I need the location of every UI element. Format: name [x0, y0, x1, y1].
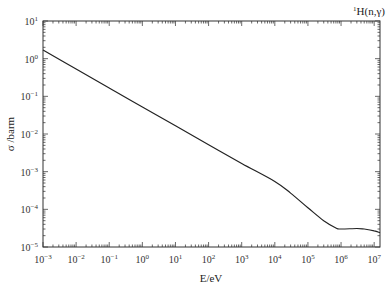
tick-label: 106 [334, 253, 348, 265]
reaction-annotation: 1H(n,γ) [353, 5, 385, 18]
cross-section-chart: 10−310−210−1100101102103104105106107 101… [0, 0, 392, 294]
tick-label: 10−4 [21, 203, 39, 215]
tick-label: 10−5 [21, 241, 39, 253]
tick-label: 10−2 [21, 128, 39, 140]
tick-label: 105 [301, 253, 315, 265]
tick-label: 101 [25, 15, 39, 27]
tick-label: 10−1 [101, 253, 119, 265]
tick-label: 100 [136, 253, 150, 265]
tick-label: 100 [25, 53, 39, 65]
tick-label: 107 [367, 253, 381, 265]
data-line [43, 50, 380, 233]
tick-label: 102 [202, 253, 216, 265]
tick-label: 104 [268, 253, 282, 265]
x-axis-label: E/eV [200, 272, 223, 284]
tick-label: 101 [169, 253, 183, 265]
axis-ticks [43, 21, 380, 247]
x-tick-labels: 10−310−210−1100101102103104105106107 [34, 253, 381, 265]
plot-frame [43, 21, 380, 247]
tick-label: 10−2 [67, 253, 85, 265]
y-tick-labels: 10110010−110−210−310−410−5 [21, 15, 39, 253]
tick-label: 10−1 [21, 90, 39, 102]
tick-label: 10−3 [21, 166, 39, 178]
tick-label: 10−3 [34, 253, 52, 265]
tick-label: 103 [235, 253, 249, 265]
y-axis-label: σ /barm [4, 116, 16, 151]
